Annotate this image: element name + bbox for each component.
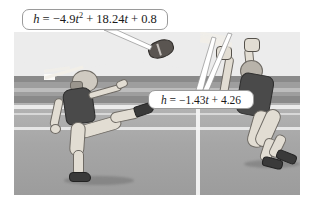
callout-defender-reach-equation: h = −1.43t + 4.26 [148,90,254,109]
kicker-hand-right [115,78,129,90]
football-lace [156,44,162,56]
eq2-coef-1: −1.43 [179,94,206,106]
eq2-equals: = [170,94,177,106]
player-kicker [44,68,164,188]
kicker-hand-left [50,124,61,134]
eq2-var-1: t [206,94,209,106]
equation-projectile: h = −4.9t2 + 18.24t + 0.8 [33,11,157,27]
eq1-plus-2: + [131,13,138,27]
eq1-coef-2: 18.24 [96,13,124,27]
kicker-shoe-plant [69,172,91,182]
eq2-plus-1: + [212,94,219,106]
eq1-var-2: t [124,13,127,27]
receiver-hand-left [216,46,232,60]
callout-projectile-equation: h = −4.9t2 + 18.24t + 0.8 [22,9,168,30]
eq2-constant: 4.26 [221,94,241,106]
eq1-plus-1: + [86,13,93,27]
eq1-constant: 0.8 [141,13,157,27]
eq1-lhs: h [33,13,39,27]
eq1-exponent: 2 [79,11,83,20]
equation-defender-reach: h = −1.43t + 4.26 [161,94,241,106]
eq1-equals: = [43,13,50,27]
football-field-illustration: 5 0 [14,32,300,195]
figure-root: 5 0 [0,0,314,211]
eq2-lhs: h [161,94,167,106]
eq1-coef-1: −4.9 [53,13,76,27]
receiver-hand-right [244,38,260,52]
